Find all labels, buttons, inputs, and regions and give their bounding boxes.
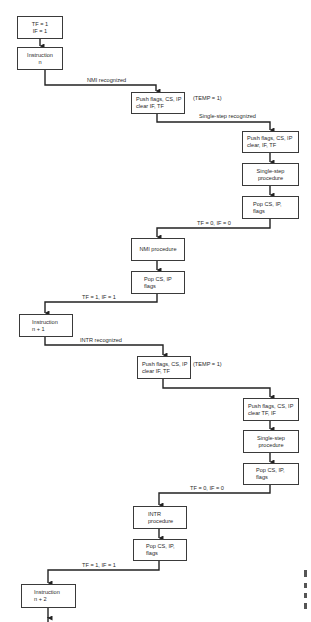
- node-instruction-n: Instruction n: [17, 47, 63, 70]
- label-intr-recognized: INTR recognized: [80, 337, 122, 343]
- clipped-text-fragment: [304, 603, 307, 609]
- node-line: IF = 1: [33, 28, 47, 35]
- node-line: n + 2: [34, 596, 71, 603]
- node-line: Pop CS, IP,: [146, 543, 182, 550]
- node-pop-cs-ip-flags-2: Pop CS, IP flags: [131, 271, 185, 294]
- node-line: Push flags, CS, IP: [248, 403, 294, 410]
- label-tf1-if1-a: TF = 1, IF = 1: [82, 294, 116, 300]
- node-pop-cs-ip-flags-1: Pop CS, IP, flags: [242, 196, 299, 219]
- label-single-step-recognized: Single-step recognized: [199, 113, 256, 119]
- node-push-flags-single-step-2: Push flags, CS, IP clear TF, IF: [243, 398, 299, 421]
- node-tf-if-set: TF = 1 IF = 1: [17, 16, 63, 39]
- node-line: flags: [144, 283, 180, 290]
- node-pop-cs-ip-flags-3: Pop CS, IP, flags: [243, 463, 299, 485]
- node-line: TF = 1: [32, 21, 48, 28]
- label-tf1-if1-b: TF = 1, IF = 1: [82, 562, 116, 568]
- clipped-text-fragment: [304, 583, 307, 588]
- node-line: clear IF, TF: [136, 103, 180, 110]
- node-intr-procedure: INTR procedure: [133, 506, 187, 529]
- label-temp-1-a: (TEMP = 1): [193, 95, 222, 101]
- node-push-flags-nmi: Push flags, CS, IP clear IF, TF: [131, 92, 185, 114]
- edge-n10-n11: [163, 378, 270, 397]
- label-nmi-recognized: NMI recognized: [87, 77, 126, 83]
- node-line: clear IF, TF: [142, 368, 186, 375]
- clipped-text-fragment: [304, 570, 307, 577]
- node-line: Single-step: [257, 435, 285, 442]
- label-tf0-if0-a: TF = 0, IF = 0: [197, 220, 231, 226]
- node-push-flags-single-step-1: Push flags, CS, IP clear, IF, TF: [242, 131, 299, 153]
- clipped-text-fragment: [304, 593, 307, 598]
- node-line: Push flags, CS, IP: [136, 96, 180, 103]
- node-line: Push flags, CS, IP: [142, 361, 186, 368]
- label-temp-1-b: (TEMP = 1): [193, 361, 222, 367]
- node-line: flags: [253, 208, 294, 215]
- node-line: INTR: [148, 511, 182, 518]
- node-nmi-procedure: NMI procedure: [131, 238, 185, 261]
- node-line: flags: [256, 474, 294, 481]
- node-instruction-n-plus-1: Instruction n + 1: [19, 314, 73, 337]
- node-line: procedure: [258, 175, 283, 182]
- node-line: Pop CS, IP: [144, 276, 180, 283]
- node-line: Pop CS, IP,: [256, 467, 294, 474]
- node-push-flags-intr: Push flags, CS, IP clear IF, TF: [137, 356, 191, 379]
- node-line: Single-step: [257, 168, 285, 175]
- node-line: procedure: [258, 442, 283, 449]
- node-line: Pop CS, IP,: [253, 201, 294, 208]
- node-line: Instruction: [32, 319, 68, 326]
- label-tf0-if0-b: TF = 0, IF = 0: [190, 485, 224, 491]
- node-line: n: [38, 59, 41, 66]
- node-single-step-procedure-1: Single-step procedure: [242, 163, 299, 186]
- node-pop-cs-ip-flags-4: Pop CS, IP, flags: [133, 539, 187, 561]
- node-line: n + 1: [32, 326, 68, 333]
- node-line: clear TF, IF: [248, 410, 294, 417]
- node-instruction-n-plus-2: Instruction n + 2: [21, 584, 76, 608]
- node-line: Push flags, CS, IP: [247, 135, 294, 142]
- node-line: Instruction: [27, 52, 53, 59]
- node-line: flags: [146, 550, 182, 557]
- node-line: clear, IF, TF: [247, 142, 294, 149]
- node-line: NMI procedure: [140, 246, 177, 253]
- flowchart: TF = 1 IF = 1 Instruction n Push flags, …: [0, 0, 311, 622]
- node-line: procedure: [148, 518, 182, 525]
- node-line: Instruction: [34, 589, 71, 596]
- node-single-step-procedure-2: Single-step procedure: [243, 430, 299, 453]
